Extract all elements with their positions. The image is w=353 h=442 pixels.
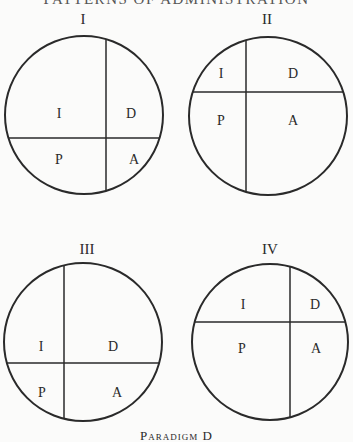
quadrant-label-p: P [238,341,246,356]
quadrant-label-a: A [311,341,322,356]
diagram-iv: IVIDPA [192,241,348,420]
diagram-i: IIDPA [5,11,163,194]
diagram-iii: IIIIDPA [4,241,162,421]
diagram-title: II [262,11,272,27]
quadrant-label-i: I [57,106,62,121]
quadrant-label-a: A [112,385,123,400]
quadrant-label-d: D [126,106,136,121]
quadrant-label-i: I [39,339,44,354]
quadrant-label-d: D [310,297,320,312]
diagram-title: III [80,241,95,257]
paradigm-diagrams: IIDPAIIIDPAIIIIDPAIVIDPA [0,0,353,442]
circle-outline [192,264,348,420]
diagram-title: IV [262,241,278,257]
quadrant-label-i: I [219,66,224,81]
quadrant-label-i: I [241,297,246,312]
quadrant-label-p: P [38,385,46,400]
figure-caption: Paradigm D [0,428,353,442]
quadrant-label-a: A [288,113,299,128]
circle-outline [189,37,347,195]
diagram-title: I [81,11,86,27]
quadrant-label-d: D [108,339,118,354]
diagram-ii: IIIDPA [189,11,347,195]
circle-outline [5,36,163,194]
quadrant-label-a: A [129,152,140,167]
quadrant-label-d: D [288,66,298,81]
circle-outline [4,263,162,421]
quadrant-label-p: P [217,113,225,128]
quadrant-label-p: P [55,152,63,167]
